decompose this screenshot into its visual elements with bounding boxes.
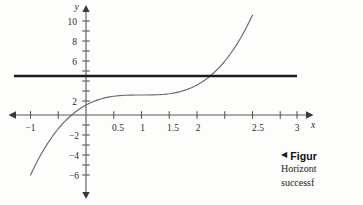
x-tick-label-0point5: 0.5 [112, 123, 124, 133]
y-tick-label-8: 8 [72, 37, 77, 47]
x-tick-label-1point5: 1.5 [167, 123, 179, 133]
figure-caption-line-1: Horizont [281, 163, 363, 176]
y-axis-bottom-arrow-icon [82, 192, 89, 199]
y-tick-label-10: 10 [68, 17, 78, 27]
y-tick-label-2: 2 [72, 97, 77, 107]
x-axis-right-arrow-icon [306, 111, 314, 119]
y-tick-label-neg4: −4 [69, 151, 79, 161]
x-tick-label-2point5: 2.5 [252, 123, 264, 133]
y-tick-label-neg6: −6 [69, 171, 79, 181]
figure-caption: ◀ Figur Horizont successf [281, 150, 363, 189]
figure-container: −1 0.5 1 1.5 2 2.5 3 10 8 6 2 −2 −4 −6 y… [0, 0, 363, 205]
caption-left-triangle-icon: ◀ [281, 151, 287, 159]
figure-caption-title: Figur [290, 150, 317, 162]
x-tick-label-3: 3 [295, 123, 300, 133]
x-tick-label-1: 1 [140, 123, 145, 133]
y-axis-top-arrow-icon [82, 5, 89, 12]
x-axis-label: x [310, 120, 316, 130]
figure-caption-line-2: successf [281, 177, 363, 190]
figure-caption-title-row: ◀ Figur [281, 150, 363, 162]
x-tick-label-neg1: −1 [25, 123, 35, 133]
y-tick-label-6: 6 [72, 57, 77, 67]
cubic-curve [31, 15, 253, 175]
x-tick-label-2: 2 [196, 123, 201, 133]
y-axis-label: y [73, 2, 79, 12]
y-tick-label-neg2: −2 [69, 131, 79, 141]
x-axis-left-arrow-icon [9, 111, 17, 119]
